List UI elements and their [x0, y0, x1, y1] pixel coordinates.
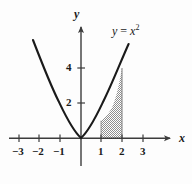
- x-tick-label-neg3: −3: [12, 146, 24, 157]
- curve-label-equals: =: [117, 24, 130, 38]
- x-tick-label-neg2: −2: [32, 146, 44, 157]
- x-tick-label-1: 1: [98, 146, 104, 157]
- plot-canvas: [0, 0, 192, 184]
- parabola-area-figure: y x y = x2 −3 −2 −1 1 2 3 2 4: [0, 0, 192, 184]
- x-tick-label-neg1: −1: [53, 146, 65, 157]
- y-tick-label-4: 4: [66, 62, 72, 73]
- y-axis-label: y: [74, 8, 79, 20]
- curve-equation-label: y = x2: [112, 24, 139, 37]
- x-axis-label: x: [179, 132, 185, 144]
- y-tick-label-2: 2: [66, 97, 72, 108]
- x-tick-label-2: 2: [119, 146, 125, 157]
- shaded-area-region: [101, 68, 122, 138]
- curve-label-exponent: 2: [135, 23, 139, 32]
- x-tick-label-3: 3: [140, 146, 146, 157]
